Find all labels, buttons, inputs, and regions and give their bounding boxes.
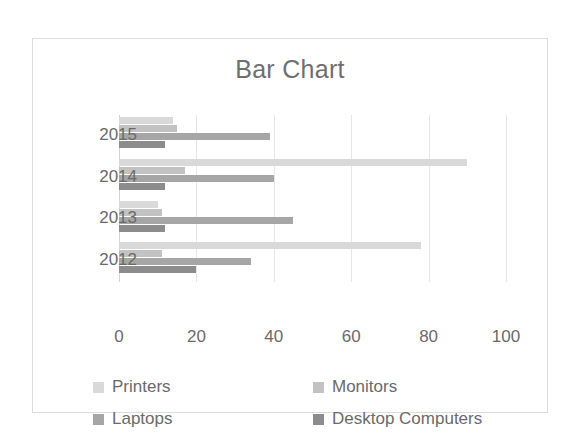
chart-legend: PrintersMonitorsLaptopsDesktop Computers [93,371,533,435]
bar-2015-laptops[interactable] [119,133,270,140]
chart-title: Bar Chart [33,55,547,84]
bar-2014-laptops[interactable] [119,175,274,182]
legend-item-printers[interactable]: Printers [93,377,313,397]
category-label-2015: 2015 [69,125,137,145]
legend-item-laptops[interactable]: Laptops [93,409,313,429]
legend-swatch-icon [313,382,324,393]
legend-label: Printers [112,377,171,397]
bar-2012-printers[interactable] [119,242,421,249]
legend-item-monitors[interactable]: Monitors [313,377,533,397]
chart-frame: Bar Chart 2015201420132012020406080100Pr… [32,38,548,413]
value-tick-label-60: 60 [329,327,373,347]
category-label-2012: 2012 [69,250,137,270]
legend-item-desktop-computers[interactable]: Desktop Computers [313,409,533,429]
value-tick-label-40: 40 [252,327,296,347]
gridline-100 [506,115,507,282]
bar-2014-printers[interactable] [119,159,467,166]
value-tick-label-0: 0 [97,327,141,347]
category-label-2013: 2013 [69,208,137,228]
legend-label: Desktop Computers [332,409,482,429]
bar-2012-laptops[interactable] [119,258,251,265]
bar-group-2013 [119,199,506,241]
legend-row: LaptopsDesktop Computers [93,403,533,435]
bar-2013-laptops[interactable] [119,217,293,224]
legend-swatch-icon [313,414,324,425]
value-tick-label-100: 100 [484,327,528,347]
value-tick-label-80: 80 [407,327,451,347]
legend-row: PrintersMonitors [93,371,533,403]
bar-2013-printers[interactable] [119,201,158,208]
value-tick-label-20: 20 [174,327,218,347]
bar-group-2014 [119,157,506,199]
legend-swatch-icon [93,414,104,425]
category-label-2014: 2014 [69,167,137,187]
bar-2015-printers[interactable] [119,117,173,124]
legend-label: Laptops [112,409,173,429]
legend-label: Monitors [332,377,397,397]
bar-group-2015 [119,115,506,157]
plot-area [119,115,506,282]
legend-swatch-icon [93,382,104,393]
bar-group-2012 [119,240,506,282]
